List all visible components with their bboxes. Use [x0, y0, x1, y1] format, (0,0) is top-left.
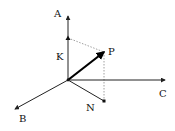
label-a: A [53, 8, 62, 19]
label-b: B [19, 113, 26, 124]
dashed-line-k-to-p [68, 38, 104, 52]
label-p: P [108, 46, 115, 57]
point-k-marker [66, 36, 71, 41]
label-c: C [159, 88, 167, 99]
point-n-marker [103, 100, 106, 103]
origin-point [67, 79, 70, 82]
label-k: K [56, 51, 64, 62]
segment-o-to-n [68, 80, 104, 101]
vector-diagram: A B C P K N [0, 0, 175, 131]
label-n: N [86, 102, 95, 113]
axis-b [15, 80, 68, 109]
vector-p [68, 52, 104, 80]
